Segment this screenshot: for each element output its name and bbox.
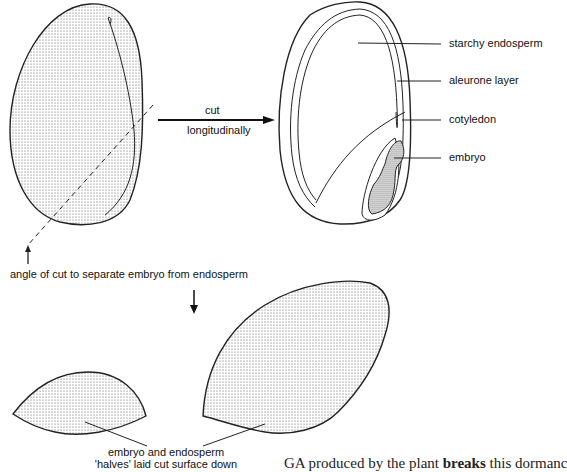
whole-seed: [10, 4, 153, 264]
label-embryo: embryo: [449, 151, 486, 164]
body-text-line: GA produced by the plant breaks this dor…: [284, 455, 567, 472]
cut-label: cut: [205, 104, 220, 117]
body-text-bold: breaks: [443, 455, 486, 471]
label-starchy-endosperm: starchy endosperm: [449, 37, 543, 50]
cut-arrow: [158, 116, 275, 124]
cut-angle-annotation: angle of cut to separate embryo from end…: [10, 268, 248, 281]
endosperm-half: [203, 281, 389, 433]
down-arrow: [190, 290, 198, 314]
longitudinally-label: longitudinally: [187, 124, 251, 137]
embryo-half: [13, 372, 146, 434]
body-text-prefix: GA produced by the plant: [284, 455, 443, 471]
label-cotyledon: cotyledon: [449, 113, 496, 126]
body-text-suffix: this dormanc: [486, 455, 567, 471]
seed-section: [279, 2, 441, 224]
label-aleurone-layer: aleurone layer: [449, 74, 519, 87]
halves-caption-line2: 'halves' laid cut surface down: [86, 458, 246, 471]
